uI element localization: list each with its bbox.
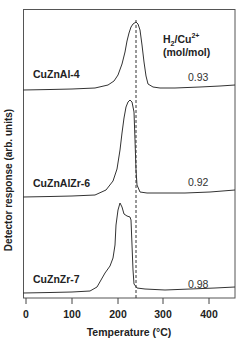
y-axis-label: Detector response (arb. units): [3, 109, 14, 251]
ratio-header: H2/Cu2+: [163, 32, 199, 47]
ratio-value-cuznzr-7: 0.98: [188, 278, 209, 290]
tick-label-0: 0: [23, 308, 29, 320]
ratio-value-cuznalzr-6: 0.92: [188, 176, 209, 188]
tick-label-300: 300: [154, 308, 172, 320]
x-axis-tick-labels: 0 100 200 300 400: [23, 308, 218, 320]
x-axis-label: Temperature (°C): [87, 326, 172, 338]
series-label-cuznalzr-6: CuZnAlZr-6: [33, 177, 90, 189]
ratio-unit: (mol/mol): [163, 46, 210, 58]
x-axis-ticks: [26, 298, 209, 304]
tick-label-200: 200: [109, 308, 127, 320]
ratio-value-cuznal-4: 0.93: [188, 71, 209, 83]
series-label-cuznal-4: CuZnAl-4: [33, 68, 80, 80]
tpr-chart: 0 100 200 300 400 Temperature (°C) Detec…: [0, 0, 243, 344]
tick-label-100: 100: [63, 308, 81, 320]
series-label-cuznzr-7: CuZnZr-7: [33, 273, 80, 285]
tick-label-400: 400: [200, 308, 218, 320]
